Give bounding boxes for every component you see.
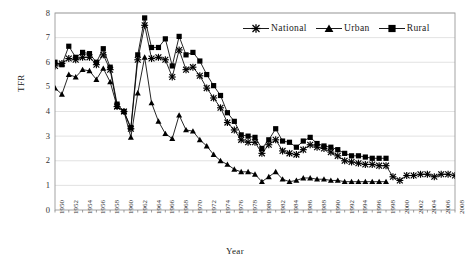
- marker-square: [211, 83, 216, 88]
- x-tick-label: 2008: [458, 200, 466, 214]
- marker-asterisk: [431, 173, 438, 180]
- x-tick-label: 1986: [306, 200, 314, 214]
- marker-triangle: [176, 112, 182, 117]
- marker-square: [252, 135, 257, 140]
- x-tick-label: 1962: [141, 200, 149, 214]
- marker-square: [266, 137, 271, 142]
- marker-asterisk: [183, 66, 190, 73]
- marker-asterisk: [203, 85, 210, 92]
- marker-square: [197, 58, 202, 63]
- marker-triangle: [80, 67, 86, 72]
- x-axis-title: Year: [0, 246, 470, 256]
- marker-square: [383, 156, 388, 161]
- marker-asterisk: [196, 72, 203, 79]
- y-tick-label: 8: [30, 8, 50, 18]
- marker-triangle: [149, 100, 155, 105]
- marker-square: [121, 109, 126, 114]
- marker-asterisk: [383, 162, 390, 169]
- marker-asterisk: [286, 150, 293, 157]
- marker-square: [301, 138, 306, 143]
- marker-asterisk: [217, 104, 224, 111]
- marker-triangle: [162, 131, 168, 136]
- x-tick-label: 1966: [168, 200, 176, 214]
- marker-asterisk: [300, 146, 307, 153]
- series-layer: [52, 15, 459, 184]
- marker-square: [314, 141, 319, 146]
- x-tick-label: 1980: [265, 200, 273, 214]
- marker-asterisk: [424, 171, 431, 178]
- marker-square: [308, 135, 313, 140]
- marker-asterisk: [224, 119, 231, 126]
- series-urban: [52, 54, 389, 184]
- marker-square: [135, 52, 140, 57]
- legend-label-urban: Urban: [344, 23, 370, 33]
- marker-square: [349, 153, 354, 158]
- marker-triangle: [266, 174, 272, 179]
- marker-square: [246, 134, 251, 139]
- marker-square: [52, 60, 57, 65]
- legend-item-urban[interactable]: Urban: [316, 23, 370, 34]
- marker-asterisk: [293, 151, 300, 158]
- y-tick-label: 1: [30, 180, 50, 190]
- marker-square: [66, 44, 71, 49]
- x-tick-label: 1994: [361, 200, 369, 214]
- marker-square: [149, 45, 154, 50]
- x-tick-label: 1998: [389, 200, 397, 214]
- marker-asterisk: [65, 55, 72, 62]
- y-tick-label: 3: [30, 131, 50, 141]
- legend-item-national[interactable]: National: [243, 23, 307, 34]
- legend-label-national: National: [271, 23, 307, 33]
- marker-asterisk: [376, 162, 383, 169]
- x-tick-label: 1984: [292, 200, 300, 214]
- x-tick-label: 1958: [113, 200, 121, 214]
- marker-square: [183, 52, 188, 57]
- x-tick-label: 1970: [196, 200, 204, 214]
- marker-asterisk: [155, 54, 162, 61]
- legend-label-rural: Rural: [407, 23, 430, 33]
- marker-asterisk: [334, 152, 341, 159]
- y-tick-label: 2: [30, 155, 50, 165]
- x-tick-label: 2006: [444, 200, 452, 214]
- marker-asterisk: [389, 173, 396, 180]
- legend-item-rural[interactable]: Rural: [379, 23, 430, 34]
- series-line: [55, 18, 386, 158]
- marker-square: [363, 154, 368, 159]
- x-tick-label: 1960: [127, 200, 135, 214]
- x-tick-label: 1976: [237, 200, 245, 214]
- marker-triangle: [128, 134, 134, 139]
- marker-square: [142, 15, 147, 20]
- marker-square: [370, 156, 375, 161]
- x-tick-label: 1968: [182, 200, 190, 214]
- x-tick-label: 1974: [224, 200, 232, 214]
- marker-asterisk: [245, 139, 252, 146]
- marker-square: [73, 55, 78, 60]
- marker-square: [335, 147, 340, 152]
- marker-triangle: [142, 54, 148, 59]
- y-tick-label: 5: [30, 81, 50, 91]
- marker-square: [356, 153, 361, 158]
- marker-square: [94, 60, 99, 65]
- chart-legend: National Urban Rural: [243, 21, 430, 35]
- x-tick-label: 1956: [99, 200, 107, 214]
- marker-square: [328, 145, 333, 150]
- marker-square: [239, 132, 244, 137]
- x-tick-label: 1954: [86, 200, 94, 214]
- x-tick-label: 1990: [334, 200, 342, 214]
- marker-square: [108, 65, 113, 70]
- marker-asterisk: [231, 126, 238, 133]
- marker-square: [80, 50, 85, 55]
- marker-square: [294, 145, 299, 150]
- marker-triangle: [135, 90, 141, 95]
- marker-asterisk: [148, 55, 155, 62]
- x-tick-label: 1978: [251, 200, 259, 214]
- marker-square: [128, 125, 133, 130]
- chart-canvas: [0, 0, 470, 266]
- marker-square: [321, 143, 326, 148]
- marker-asterisk: [162, 56, 169, 63]
- marker-asterisk: [445, 171, 452, 178]
- y-axis-title: TFR: [16, 74, 26, 92]
- marker-asterisk: [396, 177, 403, 184]
- marker-asterisk: [307, 141, 314, 148]
- marker-square: [232, 119, 237, 124]
- y-tick-label: 7: [30, 32, 50, 42]
